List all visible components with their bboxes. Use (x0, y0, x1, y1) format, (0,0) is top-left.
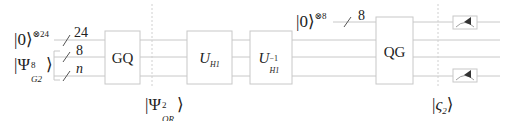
input-ket-zero-24: |0⟩⊗24 (14, 31, 49, 48)
input-ket-psi-g2: |Ψ8G2⟩ (14, 56, 53, 73)
bus-width-ancilla: 8 (358, 9, 365, 23)
bus-width-24: 24 (74, 26, 88, 40)
gate-label-uh1: UH1 (187, 50, 232, 67)
state-label-varsigma-2: |ς2⟩ (432, 96, 453, 113)
bus-width-n: n (76, 62, 83, 76)
meter-icon (453, 16, 477, 29)
bus-width-8: 8 (76, 44, 83, 58)
ancilla-ket-zero-8: |0⟩⊗8 (296, 13, 327, 30)
gate-label-qg: QG (376, 44, 413, 61)
gate-label-gq: GQ (105, 50, 140, 67)
gate-label-uh1-inverse: U−1H1 (250, 50, 292, 67)
state-label-psi-qr: |Ψ2QR⟩ (145, 96, 184, 113)
meter-icon (453, 69, 477, 82)
